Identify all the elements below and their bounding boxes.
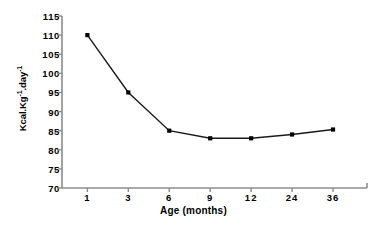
y-axis-tick-labels: 707580859095100105110115 bbox=[30, 16, 60, 188]
x-tick-label: 1 bbox=[84, 192, 90, 203]
y-axis-title-base1: Kcal.Kg bbox=[18, 96, 29, 131]
y-tick-label: 90 bbox=[30, 106, 60, 117]
y-tick-label: 75 bbox=[30, 163, 60, 174]
x-tick-label: 36 bbox=[327, 192, 340, 203]
chart-container: Kcal.Kg-1.day-1 707580859095100105110115… bbox=[0, 0, 387, 230]
y-tick-label: 95 bbox=[30, 87, 60, 98]
y-tick-label: 85 bbox=[30, 125, 60, 136]
y-tick-label: 80 bbox=[30, 144, 60, 155]
data-line bbox=[87, 35, 333, 138]
y-axis-title-sup2: -1 bbox=[16, 65, 23, 71]
plot-svg bbox=[62, 16, 367, 188]
x-tick-label: 24 bbox=[286, 192, 299, 203]
y-axis-title-sup1: -1 bbox=[16, 90, 23, 96]
y-axis-title-base2: .day bbox=[18, 71, 29, 90]
x-tick-label: 6 bbox=[166, 192, 172, 203]
y-tick-label: 70 bbox=[30, 183, 60, 194]
tick-marks bbox=[58, 16, 333, 192]
y-tick-label: 105 bbox=[30, 49, 60, 60]
y-axis-title-text: Kcal.Kg-1.day-1 bbox=[18, 65, 29, 130]
plot-area bbox=[62, 16, 367, 188]
y-tick-label: 115 bbox=[30, 11, 60, 22]
axis-lines bbox=[62, 16, 367, 188]
y-tick-label: 100 bbox=[30, 68, 60, 79]
y-tick-label: 110 bbox=[30, 30, 60, 41]
x-tick-label: 9 bbox=[207, 192, 213, 203]
x-tick-label: 3 bbox=[125, 192, 131, 203]
x-tick-label: 12 bbox=[245, 192, 258, 203]
x-axis-tick-labels: 1369122436 bbox=[62, 190, 367, 206]
data-markers bbox=[85, 33, 335, 140]
x-axis-title: Age (months) bbox=[0, 205, 387, 216]
